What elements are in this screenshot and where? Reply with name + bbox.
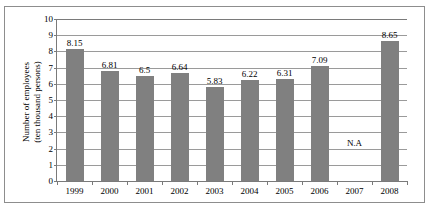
y-axis-tick-label: 2 [49,144,54,154]
bar-slot[interactable]: N.A [337,19,372,181]
bar[interactable] [311,66,329,181]
y-axis-tick-label: 8 [49,46,54,56]
y-axis-title-line-2: (ten thousand persons) [32,22,43,182]
bar-slot[interactable]: 6.5 [127,19,162,181]
x-axis-tick-mark [232,181,233,185]
bar-slot[interactable]: 6.22 [232,19,267,181]
x-axis-tick-mark [267,181,268,185]
bars-layer: 8.156.816.56.645.836.226.317.09N.A8.65 [57,19,407,181]
bar-slot[interactable]: 7.09 [302,19,337,181]
no-data-label: N.A [347,138,362,148]
y-axis-tick-label: 0 [49,176,54,186]
bar-value-label: 8.65 [382,30,398,40]
x-axis-tick-mark [337,181,338,185]
y-axis-tick-label: 7 [49,63,54,73]
bar-value-label: 6.31 [277,68,293,78]
x-axis-tick-mark [127,181,128,185]
x-axis-tick-label: 2004 [241,186,259,196]
y-axis-title-line-1: Number of employees [21,22,32,182]
y-axis-tick-label: 1 [49,160,54,170]
bar-slot[interactable]: 5.83 [197,19,232,181]
x-axis-tick-mark [57,181,58,185]
chart-frame: Number of employees (ten thousand person… [4,6,425,203]
y-axis-tick-label: 10 [44,14,53,24]
x-axis-tick-mark [407,181,408,185]
x-axis-tick-label: 1999 [66,186,84,196]
bar[interactable] [136,76,154,181]
y-axis-tick-label: 4 [49,111,54,121]
x-axis-tick-mark [302,181,303,185]
bar-slot[interactable]: 6.81 [92,19,127,181]
x-axis-tick-mark [162,181,163,185]
bar[interactable] [171,73,189,181]
bar[interactable] [101,71,119,181]
bar-value-label: 6.5 [139,65,150,75]
x-axis-tick-label: 2003 [206,186,224,196]
x-axis-tick-label: 2001 [136,186,154,196]
bar-value-label: 8.15 [67,38,83,48]
plot-area: 012345678910 8.156.816.56.645.836.226.31… [56,19,407,182]
y-axis-tick-label: 5 [49,95,54,105]
x-axis-tick-label: 2005 [276,186,294,196]
x-axis-tick-mark [372,181,373,185]
bar-value-label: 7.09 [312,55,328,65]
plot-inner: 012345678910 8.156.816.56.645.836.226.31… [56,19,407,182]
x-axis-tick-label: 2008 [381,186,399,196]
y-axis-title: Number of employees (ten thousand person… [21,22,51,182]
y-axis-tick-label: 9 [49,30,54,40]
bar-value-label: 6.81 [102,60,118,70]
x-axis-tick-label: 2000 [101,186,119,196]
bar[interactable] [276,79,294,181]
x-axis-tick-mark [92,181,93,185]
bar-slot[interactable]: 6.64 [162,19,197,181]
y-axis-tick-label: 3 [49,127,54,137]
y-axis-tick-label: 6 [49,79,54,89]
bar[interactable] [66,49,84,181]
bar-value-label: 5.83 [207,76,223,86]
bar-value-label: 6.64 [172,62,188,72]
bar[interactable] [241,80,259,181]
x-axis-tick-label: 2002 [171,186,189,196]
x-axis-tick-label: 2007 [346,186,364,196]
bar-slot[interactable]: 8.65 [372,19,407,181]
bar[interactable] [206,87,224,181]
bar-slot[interactable]: 8.15 [57,19,92,181]
bar-value-label: 6.22 [242,69,258,79]
x-axis-tick-mark [197,181,198,185]
x-axis-tick-label: 2006 [311,186,329,196]
bar[interactable] [381,41,399,181]
bar-slot[interactable]: 6.31 [267,19,302,181]
